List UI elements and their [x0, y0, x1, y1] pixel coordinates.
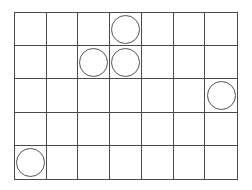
board-cell-r4-c4[interactable]	[142, 146, 174, 179]
circle-piece-icon[interactable]	[111, 48, 140, 77]
board-cell-r0-c1[interactable]	[47, 13, 79, 46]
board-cell-r0-c4[interactable]	[142, 13, 174, 46]
board-cell-r0-c6[interactable]	[205, 13, 237, 46]
board-cell-r4-c0[interactable]	[15, 146, 47, 179]
board-cell-r4-c6[interactable]	[205, 146, 237, 179]
board-cell-r2-c3[interactable]	[110, 79, 142, 112]
board-cell-r4-c2[interactable]	[78, 146, 110, 179]
board-cell-r0-c3[interactable]	[110, 13, 142, 46]
board-cell-r0-c0[interactable]	[15, 13, 47, 46]
board-cell-r2-c4[interactable]	[142, 79, 174, 112]
board-cell-r2-c0[interactable]	[15, 79, 47, 112]
circle-piece-icon[interactable]	[207, 81, 236, 110]
board-cell-r0-c2[interactable]	[78, 13, 110, 46]
board-cell-r4-c1[interactable]	[47, 146, 79, 179]
board-cell-r3-c1[interactable]	[47, 113, 79, 146]
board-cell-r2-c2[interactable]	[78, 79, 110, 112]
board-cell-r3-c4[interactable]	[142, 113, 174, 146]
board-cell-r4-c3[interactable]	[110, 146, 142, 179]
board-cell-r3-c3[interactable]	[110, 113, 142, 146]
board-cell-r1-c2[interactable]	[78, 46, 110, 79]
board-cell-r0-c5[interactable]	[174, 13, 206, 46]
board-cell-r3-c6[interactable]	[205, 113, 237, 146]
board-cell-r2-c5[interactable]	[174, 79, 206, 112]
board-cell-r4-c5[interactable]	[174, 146, 206, 179]
circle-piece-icon[interactable]	[79, 48, 108, 77]
board-cell-r1-c1[interactable]	[47, 46, 79, 79]
board-cell-r1-c5[interactable]	[174, 46, 206, 79]
board-cell-r1-c3[interactable]	[110, 46, 142, 79]
board-cell-r1-c6[interactable]	[205, 46, 237, 79]
game-board	[14, 12, 238, 180]
board-cell-r1-c0[interactable]	[15, 46, 47, 79]
board-cell-r3-c2[interactable]	[78, 113, 110, 146]
circle-piece-icon[interactable]	[16, 148, 45, 177]
board-cell-r2-c6[interactable]	[205, 79, 237, 112]
board-cell-r1-c4[interactable]	[142, 46, 174, 79]
board-cell-r3-c0[interactable]	[15, 113, 47, 146]
board-cell-r2-c1[interactable]	[47, 79, 79, 112]
board-cell-r3-c5[interactable]	[174, 113, 206, 146]
circle-piece-icon[interactable]	[111, 15, 140, 44]
